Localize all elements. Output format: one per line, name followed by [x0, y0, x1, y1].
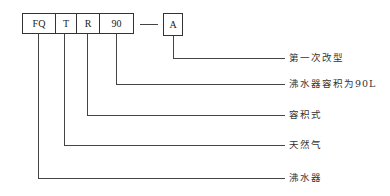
leader-r-vertical	[87, 34, 88, 115]
label-volume-90l: 沸水器容积为90L	[289, 78, 376, 90]
separator-dash	[140, 24, 158, 25]
leader-volume-vertical	[116, 34, 117, 84]
leader-fq-vertical	[38, 34, 39, 178]
label-water-boiler: 沸水器	[289, 172, 322, 184]
label-volumetric-type: 容积式	[289, 109, 322, 121]
code-box-fq: FQ	[22, 13, 56, 34]
label-natural-gas: 天然气	[289, 139, 322, 151]
leader-t-horizontal	[64, 145, 285, 146]
label-first-modification: 第一次改型	[289, 52, 344, 64]
code-box-r: R	[76, 13, 100, 34]
leader-t-vertical	[64, 34, 65, 145]
leader-a-horizontal	[173, 58, 285, 59]
leader-r-horizontal	[87, 115, 285, 116]
leader-a-vertical	[173, 36, 174, 58]
code-box-t: T	[55, 13, 77, 34]
leader-volume-horizontal	[116, 84, 285, 85]
code-box-a: A	[163, 13, 183, 36]
leader-fq-horizontal	[38, 178, 285, 179]
code-box-volume: 90	[99, 13, 134, 34]
